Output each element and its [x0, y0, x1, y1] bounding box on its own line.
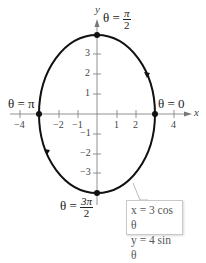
fraction: 3π 2: [80, 196, 93, 219]
y-axis: [93, 19, 101, 205]
x-tick-label: 2: [133, 119, 138, 130]
fraction-denominator: 2: [123, 20, 131, 31]
fraction: π 2: [123, 8, 131, 31]
point-theta-pi: [36, 111, 42, 117]
x-tick-label: 1: [114, 119, 119, 130]
x-tick-label: −4: [14, 119, 25, 130]
point-theta-pi-over-2: [94, 32, 100, 38]
label-theta-3pi-over-2: θ = 3π 2: [60, 196, 93, 219]
y-tick-label: −1: [80, 127, 91, 138]
y-axis-label: y: [95, 3, 100, 15]
x-tick-label: −2: [53, 119, 64, 130]
equation-callout: x = 3 cos θ y = 4 sin θ: [126, 200, 183, 235]
point-theta-3pi-over-2: [94, 190, 100, 196]
x-tick-label: 4: [171, 119, 176, 130]
theta-equals: θ =: [60, 198, 77, 213]
y-axis-arrow-icon: [95, 19, 100, 27]
theta-equals: θ =: [103, 10, 120, 25]
callout-leader: [133, 183, 148, 200]
x-axis-arrow-icon: [184, 112, 192, 117]
y-tick-label: −3: [80, 166, 91, 177]
fraction-denominator: 2: [80, 208, 93, 219]
label-theta-0: θ = 0: [158, 96, 185, 112]
x-axis-label: x: [194, 106, 199, 118]
y-tick-label: −2: [80, 147, 91, 158]
label-theta-pi: θ = π: [8, 96, 35, 112]
label-theta-pi-over-2: θ = π 2: [103, 8, 131, 31]
y-tick-label: 1: [85, 87, 90, 98]
equation-x: x = 3 cos θ: [131, 203, 178, 233]
equation-y: y = 4 sin θ: [131, 233, 178, 263]
y-tick-label: 2: [85, 67, 90, 78]
y-tick-label: 3: [85, 47, 90, 58]
